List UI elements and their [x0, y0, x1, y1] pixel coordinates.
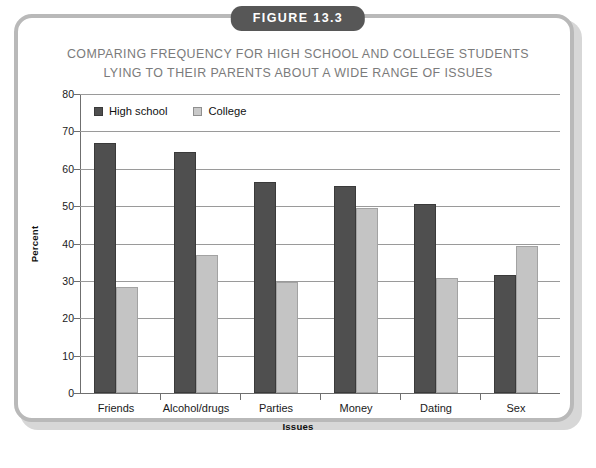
figure-number-badge: FIGURE 13.3 — [231, 6, 365, 31]
bar-high-school-sex — [494, 275, 516, 393]
plot-wrapper: 01020304050607080 FriendsAlcohol/drugsPa… — [0, 0, 596, 468]
y-tick-label: 40 — [48, 238, 74, 250]
bar-college-alcohol-drugs — [196, 255, 218, 393]
legend-item-college: College — [193, 105, 246, 117]
legend-label-college: College — [208, 105, 246, 117]
gridline — [80, 169, 560, 170]
gridline — [80, 94, 560, 95]
x-tick-mark — [160, 393, 161, 400]
bar-college-parties — [276, 282, 298, 393]
gridline — [80, 131, 560, 132]
y-tick-label: 60 — [48, 163, 74, 175]
y-tick-mark — [74, 206, 80, 207]
x-tick-mark — [240, 393, 241, 400]
y-tick-label: 20 — [48, 312, 74, 324]
y-axis-title: Percent — [29, 226, 40, 263]
bar-college-friends — [116, 287, 138, 393]
bar-high-school-dating — [414, 204, 436, 393]
legend-label-high-school: High school — [109, 105, 167, 117]
y-tick-mark — [74, 131, 80, 132]
y-tick-label: 10 — [48, 350, 74, 362]
x-tick-mark — [320, 393, 321, 400]
y-tick-mark — [74, 281, 80, 282]
gridline — [80, 356, 560, 357]
legend-swatch-college-icon — [193, 107, 202, 116]
bar-college-dating — [436, 278, 458, 393]
x-tick-mark — [400, 393, 401, 400]
chart-legend: High school College — [94, 105, 246, 117]
legend-item-high-school: High school — [94, 105, 167, 117]
bar-high-school-alcohol-drugs — [174, 152, 196, 393]
bar-college-sex — [516, 246, 538, 393]
y-tick-label: 30 — [48, 275, 74, 287]
gridline — [80, 281, 560, 282]
y-tick-label: 80 — [48, 88, 74, 100]
y-tick-mark — [74, 318, 80, 319]
y-tick-label: 70 — [48, 125, 74, 137]
x-axis-title: Issues — [0, 421, 596, 432]
x-tick-label: Parties — [259, 402, 293, 414]
x-tick-label: Alcohol/drugs — [163, 402, 230, 414]
y-tick-mark — [74, 169, 80, 170]
x-tick-label: Sex — [507, 402, 526, 414]
x-tick-mark — [480, 393, 481, 400]
gridline — [80, 206, 560, 207]
gridline — [80, 318, 560, 319]
bar-college-money — [356, 208, 378, 393]
y-tick-label: 0 — [48, 387, 74, 399]
x-tick-label: Money — [339, 402, 372, 414]
y-tick-mark — [74, 356, 80, 357]
plot-area — [80, 94, 560, 393]
y-tick-label: 50 — [48, 200, 74, 212]
gridline — [80, 244, 560, 245]
bar-high-school-parties — [254, 182, 276, 393]
x-tick-label: Friends — [98, 402, 135, 414]
y-tick-mark — [74, 393, 80, 394]
x-tick-label: Dating — [420, 402, 452, 414]
bar-high-school-money — [334, 186, 356, 393]
legend-swatch-high-school-icon — [94, 107, 103, 116]
y-tick-mark — [74, 94, 80, 95]
y-tick-mark — [74, 244, 80, 245]
bar-high-school-friends — [94, 143, 116, 393]
